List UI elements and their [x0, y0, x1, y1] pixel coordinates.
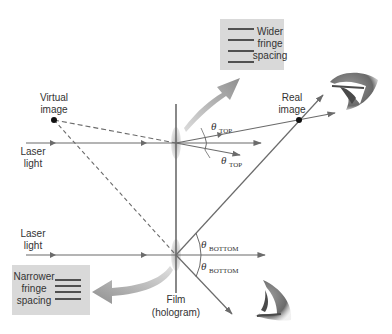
theta-bottom-lower-label: θ BOTTOM [201, 260, 239, 275]
wider-label-2: fringe [257, 38, 282, 49]
svg-text:TOP: TOP [229, 161, 242, 169]
wider-fringe-box: Wider fringe spacing [220, 19, 287, 70]
svg-text:θ: θ [211, 120, 217, 132]
virtual-image-label-1: Virtual [40, 92, 68, 103]
narrower-label-2: fringe [21, 283, 46, 294]
svg-text:θ: θ [201, 238, 207, 250]
svg-text:TOP: TOP [219, 127, 232, 135]
svg-text:BOTTOM: BOTTOM [209, 245, 239, 253]
narrower-fringe-box: Narrower fringe spacing [12, 265, 90, 315]
wider-label-3: spacing [253, 50, 287, 61]
theta-bottom-upper-label: θ BOTTOM [201, 238, 239, 253]
laser-bottom-label-2: light [24, 240, 43, 251]
real-image-point [296, 117, 302, 123]
narrower-label-3: spacing [17, 295, 51, 306]
virtual-image-rays [54, 120, 176, 255]
laser-top-label-1: Laser [20, 146, 46, 157]
virtual-image-label-2: image [40, 104, 68, 115]
top-laser-beam [26, 113, 335, 158]
theta-top-lower-label: θ TOP [221, 154, 242, 169]
laser-top-label-2: light [24, 158, 43, 169]
wider-label-1: Wider [257, 26, 284, 37]
narrower-label-1: Narrower [13, 271, 55, 282]
holography-diagram: Wider fringe spacing Narrower fringe spa… [0, 0, 392, 334]
film-label-2: (hologram) [152, 307, 200, 318]
svg-text:θ: θ [201, 260, 207, 272]
theta-top-upper-label: θ TOP [211, 120, 232, 135]
eye-bottom-icon [255, 280, 291, 321]
real-image-label-2: image [278, 104, 306, 115]
eye-top-icon [330, 73, 378, 110]
svg-text:BOTTOM: BOTTOM [209, 267, 239, 275]
laser-bottom-label-1: Laser [20, 228, 46, 239]
curved-arrow-down-icon [92, 266, 173, 304]
svg-text:θ: θ [221, 154, 227, 166]
film-label-1: Film [167, 294, 186, 305]
real-image-label-1: Real [282, 92, 303, 103]
virtual-image-point [51, 117, 57, 123]
